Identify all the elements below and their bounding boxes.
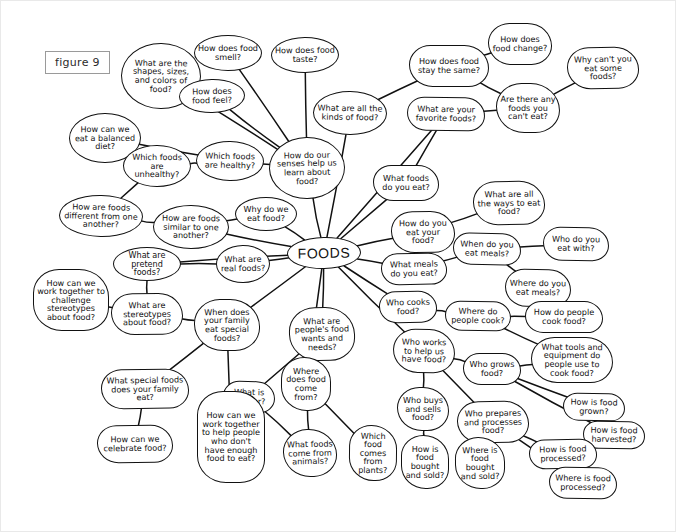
concept-node-label: How are foods different from one another… (63, 202, 139, 229)
concept-node-favorite_foods: What are your favorite foods? (407, 96, 486, 131)
concept-node-label: Which food comes from plants? (353, 431, 394, 474)
concept-node-foods_unhealthy: Which foods are unhealthy? (123, 145, 191, 187)
concept-node-label: How is food processed? (533, 445, 593, 463)
connector-foods-to-peoples_wants (323, 269, 324, 308)
concept-node-food_change: How does food change? (488, 23, 552, 66)
connector-foods_cant_eat-to-why_cant_eat (554, 82, 577, 94)
connector-stereotypes-to-family_special (181, 319, 195, 321)
concept-node-label: What are all the kinds of food? (317, 104, 383, 122)
concept-node-label: When does your family eat special foods? (198, 308, 256, 343)
concept-node-label: What meals do you eat? (385, 260, 443, 278)
concept-node-stereotypes: What are stereotypes about food? (111, 293, 183, 336)
concept-node-label: Who cooks food? (383, 298, 433, 316)
concept-node-label: Where do people cook? (449, 307, 507, 325)
concept-node-who_prepares: Who prepares and processes food? (457, 401, 530, 444)
concept-node-label: What are real foods? (220, 255, 266, 273)
concept-node-where_food_from: Where does food come from? (281, 357, 331, 411)
connector-foods-to-senses_learn (313, 198, 321, 237)
connector-where_food_from-to-from_plants (324, 402, 356, 435)
concept-node-label: What special foods does your family eat? (105, 376, 185, 403)
concept-node-label: How do you eat your food? (395, 219, 451, 245)
concept-node-label: Which foods are unhealthy? (127, 153, 187, 179)
concept-node-bought_sold_where: Where is food bought and sold? (455, 437, 505, 489)
concept-node-from_plants: Which food comes from plants? (349, 425, 398, 482)
concept-node-label: How do our senses help us learn about fo… (273, 150, 342, 185)
concept-node-label: How can we celebrate food? (101, 435, 169, 453)
concept-node-label: How can we work together to challenge st… (37, 278, 105, 321)
concept-node-label: When do you eat meals? (457, 240, 517, 258)
concept-node-bought_sold_how: How is food bought and sold? (401, 435, 449, 489)
concept-node-label: Who works to help us have food? (397, 338, 451, 365)
concept-node-label: How do people cook food? (529, 308, 599, 325)
figure-label: figure 9 (45, 51, 110, 74)
connector-senses_learn-to-food_smell (239, 70, 288, 142)
concept-node-label: What are people's food wants and needs? (293, 316, 352, 351)
concept-node-label: What foods do you eat? (377, 174, 435, 191)
concept-node-who_cooks: Who cooks food? (379, 290, 438, 323)
concept-node-who_helps: Who works to help us have food? (393, 328, 456, 373)
concept-node-peoples_wants: What are people's food wants and needs? (289, 306, 356, 361)
concept-node-label: How can we eat a balanced diet? (73, 125, 137, 151)
concept-map-page: figure 9 FOODSWhat are the shapes, sizes… (0, 0, 676, 532)
concept-node-label: How is food harvested? (587, 426, 641, 444)
connector-foods-to-why_eat_food (285, 227, 304, 240)
concept-node-how_processed: How is food processed? (529, 438, 598, 469)
connector-when_eat_meals-to-who_eat_with (520, 246, 544, 247)
concept-node-how_eat_food: How do you eat your food? (391, 211, 456, 254)
connector-senses_learn-to-food_taste (305, 73, 306, 138)
connector-where_food_from-to-from_animals (307, 410, 308, 429)
connector-foods_unhealthy-to-foods_different (121, 183, 138, 198)
concept-node-when_eat_meals: When do you eat meals? (453, 232, 522, 265)
concept-node-special_family: What special foods does your family eat? (101, 368, 190, 409)
concept-node-label: Who grows food? (467, 360, 517, 377)
concept-node-label: How are foods similar to one another? (157, 214, 225, 240)
concept-node-label: Are there any foods you can't eat? (500, 95, 556, 121)
concept-node-help_people: How can we work together to help people … (197, 391, 265, 483)
concept-node-challenge_stereo: How can we work together to challenge st… (33, 269, 109, 331)
concept-node-tools_equipment: What tools and equipment do people use t… (531, 337, 613, 384)
concept-node-label: Where does food come from? (285, 367, 327, 402)
connector-foods-to-what_meals (358, 259, 384, 264)
concept-node-who_buys_sells: Who buys and sells food? (397, 387, 449, 431)
concept-node-label: Who prepares and processes food? (461, 409, 525, 436)
concept-node-label: Where is food processed? (553, 474, 613, 492)
concept-node-foods_you_eat: What foods do you eat? (373, 165, 439, 201)
concept-node-label: What are stereotypes about food? (115, 301, 179, 327)
concept-node-label: Why can't you eat some foods? (571, 55, 635, 82)
concept-node-label: How is food bought and sold? (405, 445, 445, 479)
concept-node-label: Who do you eat with? (547, 235, 605, 253)
concept-node-label: How can we work together to help people … (201, 411, 261, 463)
concept-node-label: How does food stay the same? (413, 57, 485, 74)
concept-node-family_special: When does your family eat special foods? (194, 299, 260, 351)
concept-node-where_cook: Where do people cook? (445, 301, 511, 332)
concept-node-food_stay_same: How does food stay the same? (409, 45, 489, 87)
concept-node-pretend_foods: What are pretend foods? (113, 247, 181, 281)
concept-node-who_eat_with: Who do you eat with? (543, 227, 609, 262)
concept-node-label: How does food smell? (198, 44, 258, 61)
concept-node-food_smell: How does food smell? (194, 35, 262, 71)
concept-node-label: Who buys and sells food? (401, 396, 445, 422)
concept-node-label: Which foods are healthy? (200, 152, 260, 170)
concept-node-where_processed: Where is food processed? (549, 467, 617, 500)
concept-node-label: What are all the ways to eat food? (477, 190, 541, 217)
concept-node-what_meals: What meals do you eat? (381, 252, 448, 285)
concept-node-how_people_cook: How do people cook food? (525, 301, 603, 333)
concept-node-foods_cant_eat: Are there any foods you can't eat? (496, 83, 560, 133)
connector-special_family-to-celebrate (138, 409, 141, 426)
concept-node-celebrate: How can we celebrate food? (97, 425, 173, 464)
concept-node-kinds_of_food: What are all the kinds of food? (313, 90, 388, 135)
connector-family_special-to-special_family (167, 343, 204, 372)
concept-node-label: Where is food bought and sold? (459, 446, 501, 481)
connector-why_eat_food-to-foods_similar (227, 219, 237, 221)
concept-node-label: How is food grown? (567, 398, 621, 416)
connector-foods-to-real_foods (269, 258, 289, 261)
concept-node-label: What foods come from animals? (287, 440, 334, 467)
concept-node-which_healthy: Which foods are healthy? (196, 140, 265, 181)
connector-foods-to-how_eat_food (357, 238, 394, 246)
connector-who_grows-to-tools_equipment (520, 364, 533, 366)
concept-node-label: What are pretend foods? (117, 251, 177, 277)
concept-node-why_cant_eat: Why can't you eat some foods? (567, 46, 640, 89)
concept-node-ways_to_eat: What are all the ways to eat food? (473, 180, 546, 225)
connector-kinds_of_food-to-food_stay_same (378, 80, 420, 100)
concept-node-label: What are your favorite foods? (411, 105, 481, 123)
